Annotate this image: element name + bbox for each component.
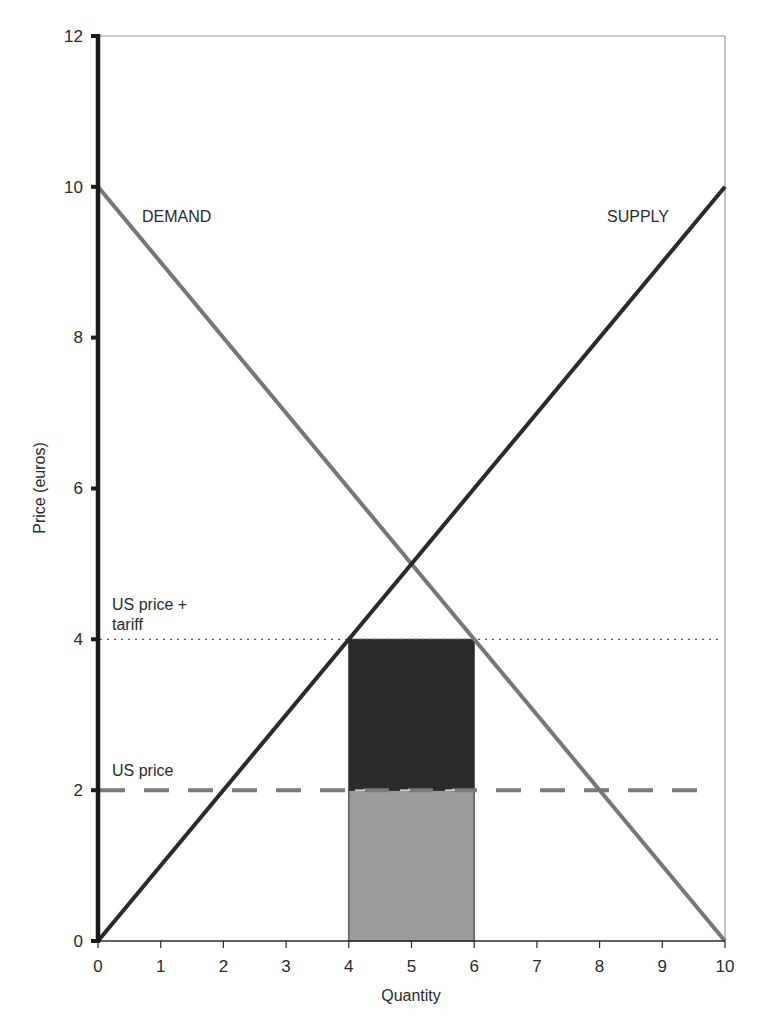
supply-label: SUPPLY — [607, 208, 669, 225]
y-tick-label: 0 — [74, 932, 83, 951]
x-tick-label: 4 — [344, 957, 353, 976]
x-tick-label: 5 — [407, 957, 416, 976]
us-price-tariff-label-line1: US price + — [112, 596, 187, 613]
x-axis-title: Quantity — [381, 987, 441, 1004]
x-tick-label: 1 — [156, 957, 165, 976]
y-tick-label: 6 — [74, 479, 83, 498]
y-tick-label: 4 — [74, 630, 83, 649]
y-tick-label: 2 — [74, 781, 83, 800]
x-tick-label: 3 — [281, 957, 290, 976]
us-price-label: US price — [112, 762, 173, 779]
x-tick-label: 9 — [658, 957, 667, 976]
y-tick-labels: 0 2 4 6 8 10 12 — [64, 27, 83, 951]
x-tick-label: 0 — [93, 957, 102, 976]
y-tick-label: 10 — [64, 178, 83, 197]
import-cost-area — [349, 790, 474, 941]
x-tick-label: 6 — [469, 957, 478, 976]
y-axis-title: Price (euros) — [31, 442, 48, 534]
y-tick-label: 8 — [74, 328, 83, 347]
x-ticks — [98, 941, 725, 948]
x-tick-labels: 0 1 2 3 4 5 6 7 8 9 10 — [93, 957, 734, 976]
x-tick-label: 2 — [219, 957, 228, 976]
x-tick-label: 10 — [716, 957, 735, 976]
us-price-tariff-label-line2: tariff — [112, 616, 143, 633]
demand-label: DEMAND — [142, 208, 211, 225]
tariff-revenue-area — [349, 639, 474, 790]
x-tick-label: 7 — [532, 957, 541, 976]
chart: 0 2 4 6 8 10 12 0 1 2 3 4 5 6 7 8 9 10 Q… — [0, 0, 766, 1031]
y-tick-label: 12 — [64, 27, 83, 46]
x-tick-label: 8 — [595, 957, 604, 976]
